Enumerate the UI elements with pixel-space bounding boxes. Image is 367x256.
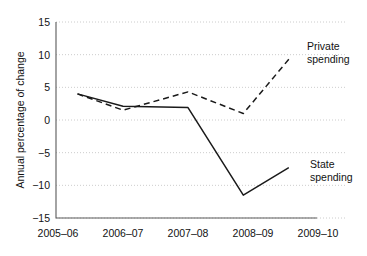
private-spending-label-line1: Private <box>307 40 340 52</box>
line-chart: 15 10 5 0 −5 −10 −15 2005–06 2006–07 200… <box>0 0 367 256</box>
state-spending-line <box>78 94 289 195</box>
ytick-label-neg10: −10 <box>32 179 50 191</box>
y-axis-title: Annual percentage of change <box>14 51 26 188</box>
state-spending-annotation: State spending <box>310 158 353 183</box>
chart-canvas: 15 10 5 0 −5 −10 −15 2005–06 2006–07 200… <box>0 0 367 256</box>
ytick-label-5: 5 <box>44 81 50 93</box>
ytick-label-0: 0 <box>44 114 50 126</box>
y-axis-tick-labels: 15 10 5 0 −5 −10 −15 <box>32 16 50 224</box>
private-spending-line <box>78 59 289 113</box>
xtick-label-2005-06: 2005–06 <box>38 227 79 239</box>
gridlines <box>56 22 345 218</box>
y-axis-title-text: Annual percentage of change <box>14 51 26 188</box>
xtick-label-2007-08: 2007–08 <box>168 227 209 239</box>
series-private-spending <box>78 59 289 113</box>
ytick-label-neg5: −5 <box>38 147 50 159</box>
series-state-spending <box>78 94 289 195</box>
ytick-label-10: 10 <box>38 49 50 61</box>
xtick-label-2009-10: 2009–10 <box>298 227 339 239</box>
x-axis-tick-labels: 2005–06 2006–07 2007–08 2008–09 2009–10 <box>38 227 339 239</box>
state-spending-label-line1: State <box>310 158 335 170</box>
xtick-label-2006-07: 2006–07 <box>103 227 144 239</box>
xtick-label-2008-09: 2008–09 <box>233 227 274 239</box>
private-spending-label-line2: spending <box>307 53 350 65</box>
state-spending-label-line2: spending <box>310 171 353 183</box>
ytick-label-15: 15 <box>38 16 50 28</box>
private-spending-annotation: Private spending <box>307 40 350 65</box>
ytick-label-neg15: −15 <box>32 212 50 224</box>
